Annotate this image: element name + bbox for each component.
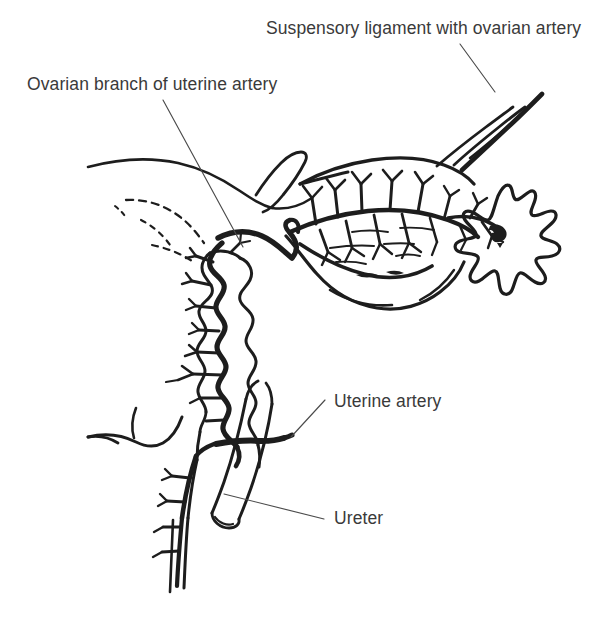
figure-canvas: Suspensory ligament with ovarian artery … xyxy=(0,0,597,619)
label-ovarian-branch: Ovarian branch of uterine artery xyxy=(27,74,277,94)
anatomical-figure: Suspensory ligament with ovarian artery … xyxy=(0,0,597,619)
label-suspensory-ligament: Suspensory ligament with ovarian artery xyxy=(266,18,581,38)
label-ureter: Ureter xyxy=(334,508,383,528)
label-uterine-artery: Uterine artery xyxy=(334,391,442,411)
